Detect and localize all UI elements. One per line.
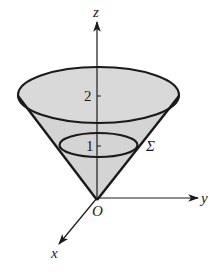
x-axis-label: x (50, 245, 58, 261)
z-tick-label-2: 2 (84, 88, 92, 104)
z-axis-label: z (92, 4, 99, 20)
z-tick-label-1: 1 (86, 138, 94, 154)
surface-label-sigma: Σ (145, 138, 155, 154)
origin-label: O (92, 203, 103, 219)
y-axis-label: y (199, 190, 208, 206)
diagram-svg: z y x O 2 1 Σ (0, 0, 211, 276)
cone-diagram: z y x O 2 1 Σ (0, 0, 211, 276)
